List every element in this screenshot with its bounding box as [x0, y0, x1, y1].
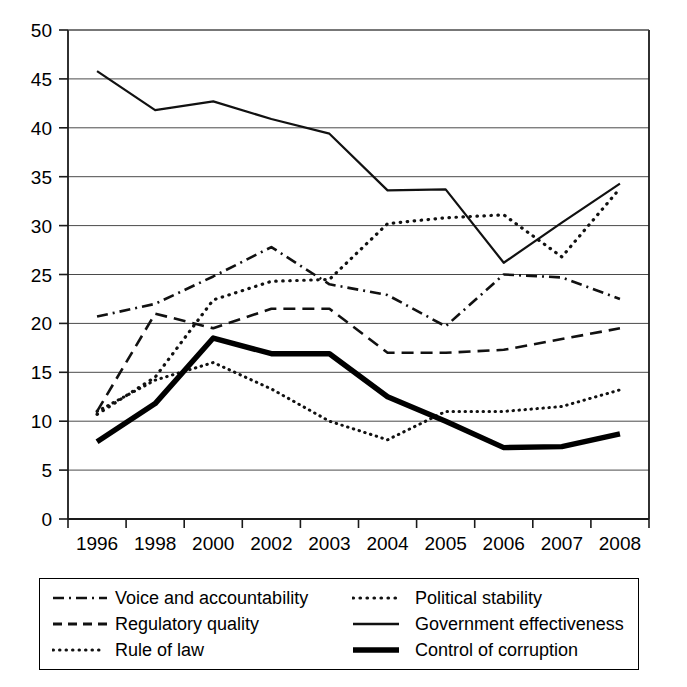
series-line-government-effectiveness — [97, 71, 620, 263]
legend-item-political-stability[interactable]: Political stability — [352, 585, 652, 611]
x-axis-tick-label: 1998 — [134, 533, 176, 554]
figure: 0510152025303540455019961998200020022003… — [0, 0, 687, 687]
y-axis-tick-label: 20 — [31, 313, 52, 334]
y-axis-tick-label: 50 — [31, 20, 52, 41]
y-axis-tick-label: 25 — [31, 265, 52, 286]
y-axis-tick-label: 0 — [41, 509, 52, 530]
legend-label-political-stability: Political stability — [415, 589, 542, 607]
legend-swatch-government-effectiveness — [352, 617, 408, 631]
y-axis-tick-label: 40 — [31, 118, 52, 139]
x-axis-tick-label: 1996 — [76, 533, 118, 554]
legend-item-control-of-corruption[interactable]: Control of corruption — [352, 637, 652, 663]
x-axis-tick-label: 2002 — [250, 533, 292, 554]
legend-swatch-voice-and-accountability — [52, 591, 108, 605]
series-line-regulatory-quality — [97, 309, 620, 412]
chart-legend: Voice and accountability Political stabi… — [39, 578, 639, 670]
y-axis-tick-label: 10 — [31, 411, 52, 432]
x-axis-tick-label: 2005 — [425, 533, 467, 554]
legend-swatch-regulatory-quality — [52, 617, 108, 631]
chart-plot-area: 0510152025303540455019961998200020022003… — [0, 0, 687, 570]
legend-swatch-rule-of-law — [52, 643, 108, 657]
y-axis-tick-label: 15 — [31, 362, 52, 383]
legend-swatch-political-stability — [352, 591, 408, 605]
legend-label-voice-and-accountability: Voice and accountability — [115, 589, 308, 607]
legend-item-voice-and-accountability[interactable]: Voice and accountability — [52, 585, 352, 611]
x-axis-tick-label: 2000 — [192, 533, 234, 554]
legend-item-government-effectiveness[interactable]: Government effectiveness — [352, 611, 652, 637]
line-chart: 0510152025303540455019961998200020022003… — [0, 0, 687, 570]
y-axis-tick-label: 5 — [41, 460, 52, 481]
legend-label-control-of-corruption: Control of corruption — [415, 641, 578, 659]
legend-label-rule-of-law: Rule of law — [115, 641, 204, 659]
x-axis-tick-label: 2008 — [599, 533, 641, 554]
legend-item-regulatory-quality[interactable]: Regulatory quality — [52, 611, 352, 637]
x-axis-tick-label: 2004 — [366, 533, 409, 554]
x-axis-tick-label: 2006 — [483, 533, 525, 554]
x-axis-tick-label: 2003 — [308, 533, 350, 554]
series-line-voice-and-accountability — [97, 247, 620, 326]
y-axis-tick-label: 30 — [31, 216, 52, 237]
y-axis-tick-label: 45 — [31, 69, 52, 90]
legend-swatch-control-of-corruption — [352, 643, 408, 657]
y-axis-tick-label: 35 — [31, 167, 52, 188]
legend-item-rule-of-law[interactable]: Rule of law — [52, 637, 352, 663]
legend-label-regulatory-quality: Regulatory quality — [115, 615, 259, 633]
legend-label-government-effectiveness: Government effectiveness — [415, 615, 624, 633]
x-axis-tick-label: 2007 — [541, 533, 583, 554]
